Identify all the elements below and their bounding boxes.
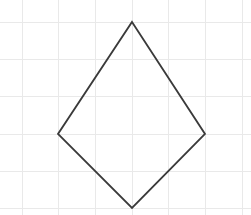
figure-canvas <box>0 0 251 215</box>
figure-svg <box>0 0 251 215</box>
